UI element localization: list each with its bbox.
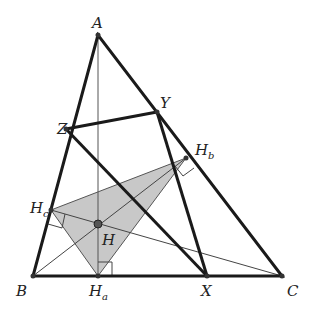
label-ha-main: H <box>88 282 103 300</box>
label-y: Y <box>160 94 172 112</box>
label-hc: Hc <box>29 199 49 219</box>
label-hb-main: H <box>194 141 209 159</box>
segment-zy <box>66 112 157 129</box>
point-c <box>280 274 285 279</box>
label-hb-sub: b <box>208 150 214 161</box>
label-a: A <box>90 14 103 32</box>
label-z: Z <box>56 120 68 138</box>
point-x <box>205 274 210 279</box>
label-hb: Hb <box>194 141 215 161</box>
label-x: X <box>200 282 213 300</box>
diagram-svg: A B C X Y Z H Ha Hb Hc <box>0 0 314 317</box>
point-ha <box>96 274 101 279</box>
point-hb <box>184 156 189 161</box>
label-ha: Ha <box>88 282 108 302</box>
orthic-triangle <box>51 158 186 276</box>
label-hc-main: H <box>29 199 44 217</box>
geometry-diagram: A B C X Y Z H Ha Hb Hc <box>0 0 314 317</box>
point-h <box>94 220 102 228</box>
label-c: C <box>287 282 299 300</box>
label-hc-sub: c <box>43 208 49 219</box>
point-hc <box>49 208 54 213</box>
label-h: H <box>101 231 116 249</box>
point-a <box>96 33 101 38</box>
triangle-abc <box>33 35 282 276</box>
label-b: B <box>15 282 27 300</box>
point-y <box>155 110 160 115</box>
point-b <box>31 274 36 279</box>
label-ha-sub: a <box>102 291 108 302</box>
